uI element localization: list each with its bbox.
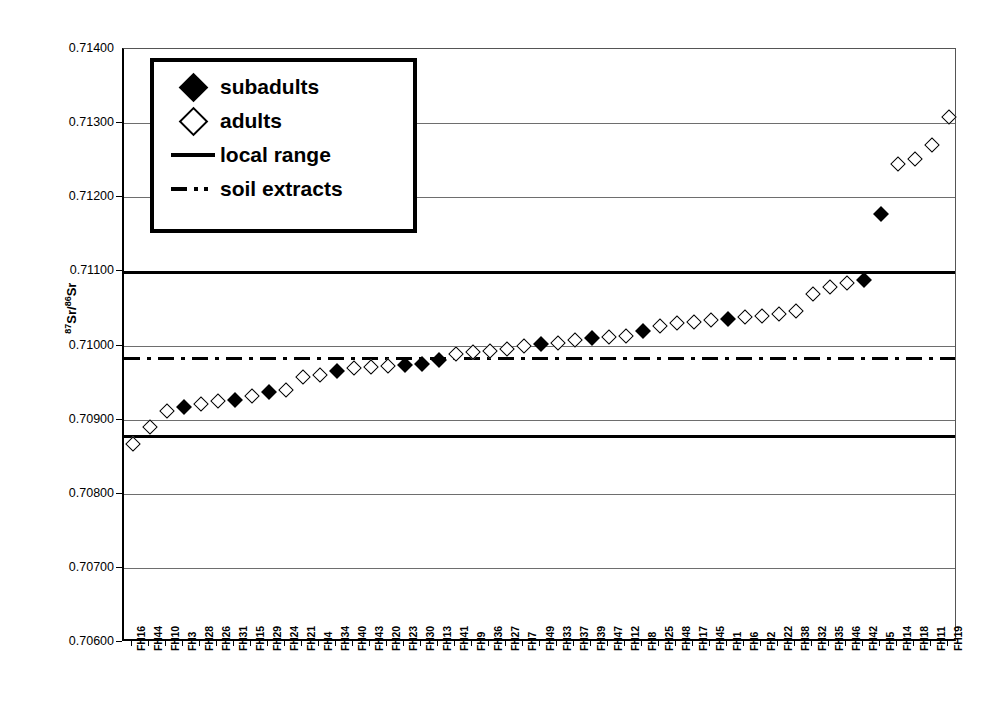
x-axis-tick-mark (318, 641, 319, 646)
x-axis-tick-label: FH44 (152, 626, 164, 651)
y-axis-tick-label: 0.71400 (36, 42, 114, 54)
legend-item-soil-extracts: soil extracts (166, 172, 399, 206)
solid-line-icon (171, 153, 215, 157)
x-axis-tick-mark (284, 641, 285, 646)
x-axis-tick-mark (879, 641, 880, 646)
x-axis-tick-label: FH10 (169, 626, 181, 651)
data-point-fh2 (754, 308, 770, 324)
dash-dot-line-icon (171, 187, 215, 191)
x-axis-tick-label: FH38 (799, 626, 811, 651)
x-axis-tick-label: FH24 (288, 626, 300, 651)
x-axis-tick-mark (777, 641, 778, 646)
legend-key-1 (166, 111, 220, 132)
reference-line-soil-extracts (124, 357, 955, 360)
legend-item-subadults: subadults (166, 70, 399, 104)
x-axis-tick-mark (352, 641, 353, 646)
x-axis-tick-label: FH12 (629, 626, 641, 651)
x-axis-tick-label: FH19 (952, 626, 964, 651)
x-axis-tick-mark (301, 641, 302, 646)
x-axis-tick-label: FH48 (680, 626, 692, 651)
x-axis-tick-mark (692, 641, 693, 646)
x-axis-tick-label: FH25 (663, 626, 675, 651)
x-axis-tick-mark (182, 641, 183, 646)
data-point-fh39 (584, 330, 600, 346)
x-axis-tick-mark (471, 641, 472, 646)
x-axis-tick-label: FH35 (833, 626, 845, 651)
x-axis-tick-label: FH28 (203, 626, 215, 651)
data-point-fh35 (823, 279, 839, 295)
data-point-fh21 (295, 370, 311, 386)
legend-item-adults: adults (166, 104, 399, 138)
data-point-fh24 (278, 382, 294, 398)
data-point-fh12 (618, 328, 634, 344)
data-point-fh5 (874, 206, 890, 222)
x-axis-tick-label: FH26 (220, 626, 232, 651)
data-point-fh40 (346, 361, 362, 377)
legend-label: subadults (220, 75, 319, 99)
x-axis-tick-label: FH23 (407, 626, 419, 651)
x-axis-tick-mark (165, 641, 166, 646)
x-axis-tick-label: FH18 (918, 626, 930, 651)
x-axis-tick-label: FH21 (305, 626, 317, 651)
data-point-fh13 (431, 353, 447, 369)
data-point-fh10 (159, 403, 175, 419)
x-axis-tick-mark (386, 641, 387, 646)
data-point-fh31 (227, 392, 243, 408)
gridline (124, 494, 955, 495)
x-axis-tick-label: FH43 (373, 626, 385, 651)
legend-label: local range (220, 143, 331, 167)
data-point-fh4 (312, 367, 328, 383)
legend-item-local-range: local range (166, 138, 399, 172)
data-point-fh17 (686, 314, 702, 330)
x-axis-tick-label: FH22 (782, 626, 794, 651)
x-axis-tick-mark (862, 641, 863, 646)
legend-key-2 (166, 153, 220, 157)
x-axis-tick-label: FH6 (748, 632, 760, 651)
data-point-fh42 (857, 272, 873, 288)
x-axis-tick-label: FH8 (646, 632, 658, 651)
y-axis-tick-label: 0.70600 (36, 635, 114, 647)
data-point-fh44 (142, 419, 158, 435)
data-point-fh47 (601, 330, 617, 346)
x-axis-tick-label: FH20 (390, 626, 402, 651)
x-axis-tick-mark (828, 641, 829, 646)
data-point-fh43 (363, 359, 379, 375)
x-axis-tick-label: FH40 (356, 626, 368, 651)
x-axis-tick-label: FH11 (935, 627, 947, 651)
data-point-fh48 (669, 315, 685, 331)
x-axis-tick-mark (624, 641, 625, 646)
reference-line-local-range (124, 271, 955, 274)
x-axis-tick-label: FH49 (544, 626, 556, 651)
data-point-fh32 (806, 286, 822, 302)
x-axis-tick-mark (675, 641, 676, 646)
data-point-fh33 (550, 335, 566, 351)
x-axis-tick-label: FH47 (612, 626, 624, 651)
legend-key-3 (166, 187, 220, 191)
x-axis-tick-mark (335, 641, 336, 646)
x-axis-tick-label: FH13 (441, 626, 453, 651)
legend-key-0 (166, 77, 220, 98)
y-axis-tick-label: 0.71100 (36, 264, 114, 276)
y-axis-title-sup-86: 86 (63, 296, 73, 306)
data-point-fh14 (891, 156, 907, 172)
x-axis-tick-label: FH46 (850, 626, 862, 651)
x-axis-tick-mark (267, 641, 268, 646)
data-point-fh3 (176, 399, 192, 415)
reference-line-local-range (124, 435, 955, 438)
x-axis-tick-label: FH37 (578, 626, 590, 651)
x-axis-tick-mark (539, 641, 540, 646)
data-point-fh1 (720, 311, 736, 327)
x-axis-tick-mark (930, 641, 931, 646)
x-axis-tick-mark (709, 641, 710, 646)
x-axis-tick-label: FH27 (509, 626, 521, 651)
x-axis-tick-label: FH2 (765, 632, 777, 651)
data-point-fh34 (329, 363, 345, 379)
x-axis-tick-label: FH32 (816, 626, 828, 651)
x-axis-tick-label: FH31 (237, 626, 249, 651)
x-axis-tick-label: FH41 (458, 626, 470, 651)
x-axis-tick-label: FH9 (475, 632, 487, 651)
gridline (124, 420, 955, 421)
x-axis-tick-mark (131, 641, 132, 646)
x-axis-tick-label: FH33 (561, 626, 573, 651)
y-axis-tick-label: 0.70700 (36, 561, 114, 573)
